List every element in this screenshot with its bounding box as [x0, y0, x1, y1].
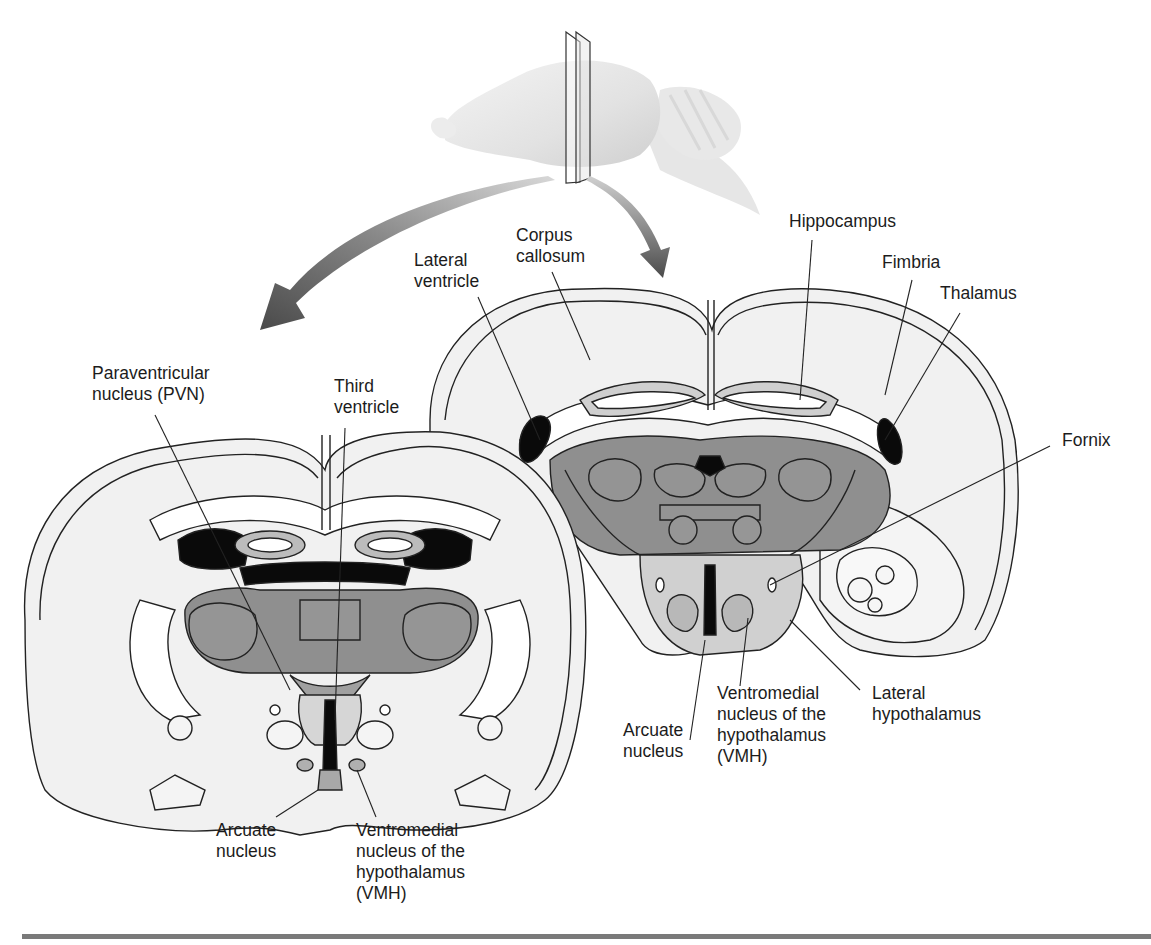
label-thalamus: Thalamus — [940, 283, 1017, 304]
label-arcuate-nucleus-right: Arcuate nucleus — [623, 720, 683, 762]
label-line: Lateral — [414, 250, 479, 271]
label-line: Ventromedial — [356, 820, 465, 841]
label-line: nucleus of the — [717, 704, 826, 725]
label-vmh-right: Ventromedial nucleus of the hypothalamus… — [717, 683, 826, 767]
label-line: Hippocampus — [789, 211, 896, 232]
label-line: (VMH) — [717, 746, 826, 767]
label-line: nucleus — [623, 741, 683, 762]
label-line: nucleus (PVN) — [92, 384, 210, 405]
label-line: hypothalamus — [356, 862, 465, 883]
label-line: Fornix — [1062, 430, 1111, 451]
label-lateral-hypothalamus: Lateral hypothalamus — [872, 683, 981, 725]
brain-section-diagram — [0, 0, 1151, 945]
label-hippocampus: Hippocampus — [789, 211, 896, 232]
label-paraventricular-nucleus: Paraventricular nucleus (PVN) — [92, 363, 210, 405]
anterior-coronal-section — [25, 432, 586, 835]
label-line: Third — [334, 376, 399, 397]
label-line: ventricle — [334, 397, 399, 418]
label-line: hypothalamus — [717, 725, 826, 746]
label-line: callosum — [516, 246, 585, 267]
label-line: Corpus — [516, 225, 585, 246]
label-fornix: Fornix — [1062, 430, 1111, 451]
label-line: Thalamus — [940, 283, 1017, 304]
label-line: Paraventricular — [92, 363, 210, 384]
label-vmh-left: Ventromedial nucleus of the hypothalamus… — [356, 820, 465, 904]
label-line: nucleus of the — [356, 841, 465, 862]
label-line: hypothalamus — [872, 704, 981, 725]
label-line: Arcuate — [623, 720, 683, 741]
label-line: Fimbria — [882, 252, 940, 273]
label-line: Ventromedial — [717, 683, 826, 704]
bottom-divider — [22, 934, 1151, 939]
label-arcuate-nucleus-left: Arcuate nucleus — [216, 820, 276, 862]
label-fimbria: Fimbria — [882, 252, 940, 273]
label-line: nucleus — [216, 841, 276, 862]
label-line: ventricle — [414, 271, 479, 292]
label-line: (VMH) — [356, 883, 465, 904]
label-third-ventricle: Third ventricle — [334, 376, 399, 418]
arrow-to-posterior-section — [586, 176, 670, 278]
label-lateral-ventricle: Lateral ventricle — [414, 250, 479, 292]
label-corpus-callosum: Corpus callosum — [516, 225, 585, 267]
label-line: Arcuate — [216, 820, 276, 841]
label-line: Lateral — [872, 683, 981, 704]
sagittal-brain-icon — [431, 32, 760, 215]
